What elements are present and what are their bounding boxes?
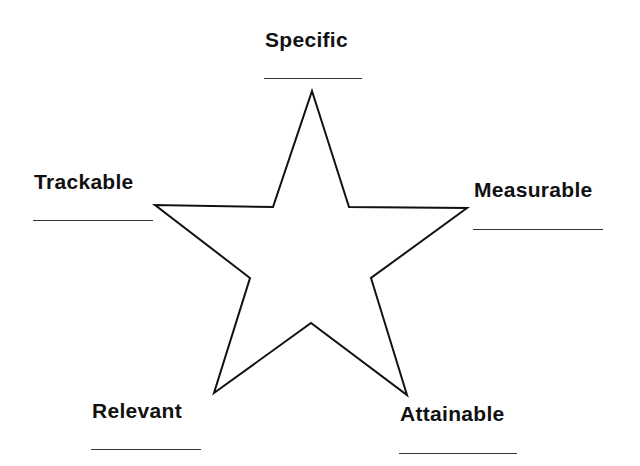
label-measurable: Measurable — [474, 178, 593, 202]
answer-line-specific[interactable] — [264, 78, 362, 79]
answer-line-trackable[interactable] — [33, 220, 153, 221]
star-shape — [0, 0, 640, 466]
answer-line-attainable[interactable] — [399, 453, 517, 454]
label-attainable: Attainable — [400, 402, 505, 426]
answer-line-measurable[interactable] — [473, 229, 603, 230]
label-trackable: Trackable — [34, 170, 134, 194]
label-relevant: Relevant — [92, 399, 182, 423]
answer-line-relevant[interactable] — [91, 449, 201, 450]
label-specific: Specific — [265, 28, 348, 52]
